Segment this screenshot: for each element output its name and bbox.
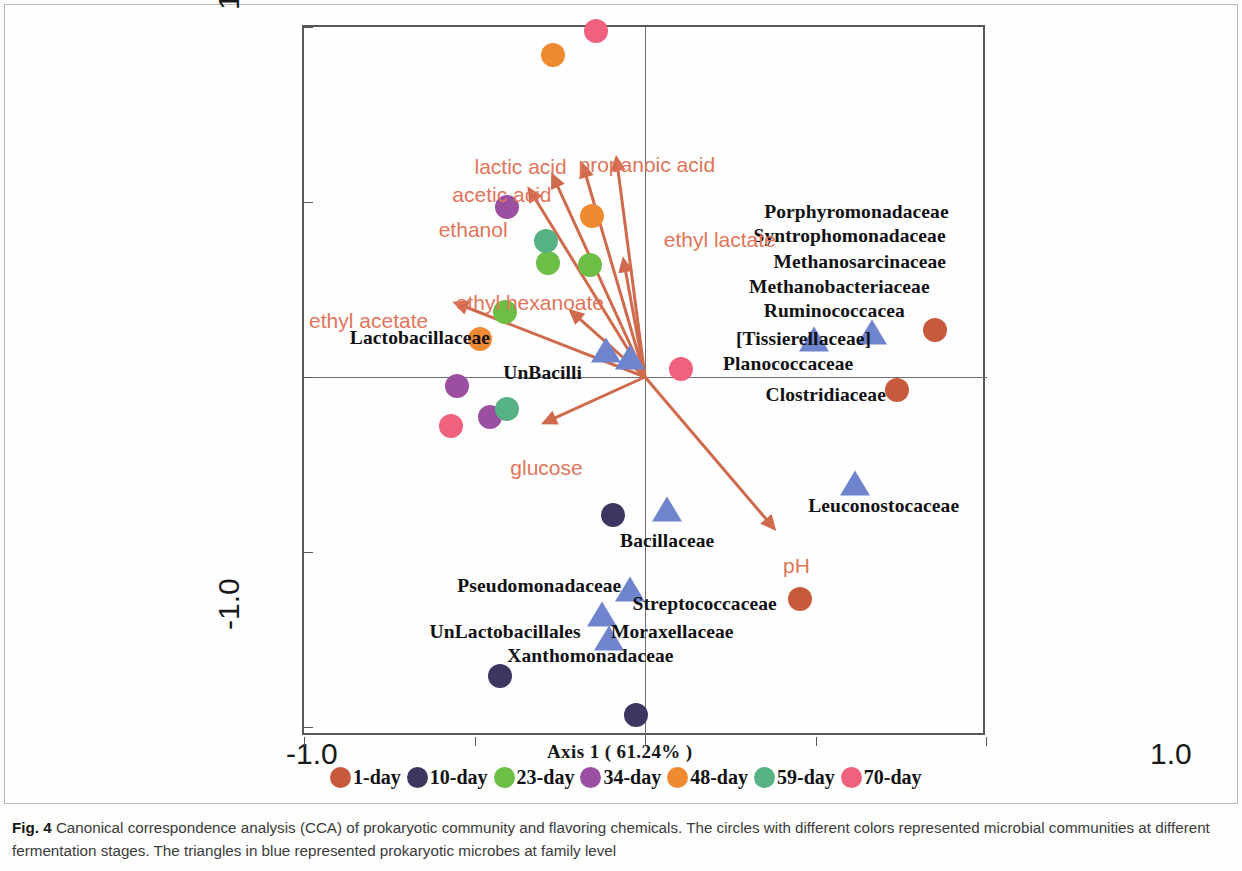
legend-item-1-day[interactable]: 1-day: [330, 766, 401, 789]
sample-circle-marker: [495, 397, 519, 421]
taxon-label: Methanosarcinaceae: [774, 251, 947, 273]
chemical-vector-label: glucose: [510, 456, 582, 480]
taxon-label: Ruminococcacea: [764, 300, 905, 322]
x-axis-title: Axis 1 ( 61.24% ): [547, 741, 693, 763]
x-axis-tick: [304, 737, 305, 746]
sample-circle-marker: [601, 503, 625, 527]
chemical-vector-label: propanoic acid: [579, 153, 716, 177]
figure-container: -1.0 1.0 1.0 -1.0 Axis 1 ( 61.24% ) Axis…: [0, 0, 1242, 871]
x-axis-tick: [475, 737, 476, 746]
chemical-vector-label: acetic acid: [452, 183, 551, 207]
taxon-label: Bacillaceae: [620, 530, 714, 552]
taxon-label: [Tissierellaceae]: [736, 328, 871, 350]
legend-label: 1-day: [353, 766, 401, 789]
taxon-triangle-marker: [840, 470, 870, 495]
x-axis-max-label: 1.0: [1150, 737, 1192, 771]
taxon-label: Xanthomonadaceae: [507, 645, 673, 667]
taxon-label: Methanobacteriaceae: [749, 276, 930, 298]
taxon-label: UnBacilli: [503, 362, 582, 384]
caption-text: Canonical correspondence analysis (CCA) …: [12, 819, 1210, 859]
legend-label: 59-day: [777, 766, 835, 789]
taxon-label: Pseudomonadaceae: [457, 575, 621, 597]
y-axis-max-label: 1.0: [212, 0, 246, 10]
legend-color-swatch: [580, 767, 601, 788]
legend-label: 10-day: [430, 766, 488, 789]
chemical-vector-label: ethyl acetate: [309, 309, 428, 333]
chemical-vector-label: pH: [783, 554, 810, 578]
sample-circle-marker: [624, 703, 648, 727]
legend-label: 34-day: [603, 766, 661, 789]
x-axis-tick: [816, 737, 817, 746]
sample-circle-marker: [669, 357, 693, 381]
sample-circle-marker: [536, 251, 560, 275]
legend-color-swatch: [494, 767, 515, 788]
sample-circle-marker: [584, 19, 608, 43]
taxon-label: Planococcaceae: [723, 353, 853, 375]
sample-circle-marker: [923, 318, 947, 342]
cca-plot-area: PorphyromonadaceaeSyntrophomonadaceaeMet…: [302, 25, 985, 735]
legend-color-swatch: [754, 767, 775, 788]
legend-item-34-day[interactable]: 34-day: [580, 766, 661, 789]
chemical-vector-label: ethyl hexanoate: [456, 291, 604, 315]
y-axis-min-label: -1.0: [212, 578, 246, 630]
legend-label: 70-day: [864, 766, 922, 789]
sample-circle-marker: [578, 253, 602, 277]
sample-circle-marker: [885, 378, 909, 402]
legend-color-swatch: [841, 767, 862, 788]
x-axis-tick: [645, 737, 646, 746]
x-axis-tick: [986, 737, 987, 746]
chemical-vector-label: lactic acid: [475, 155, 567, 179]
chemical-vector-label: ethyl lactate: [664, 228, 776, 252]
sample-circle-marker: [580, 204, 604, 228]
legend-label: 23-day: [517, 766, 575, 789]
taxon-label: Porphyromonadaceae: [764, 201, 949, 223]
taxon-triangle-marker: [615, 344, 645, 369]
legend-label: 48-day: [690, 766, 748, 789]
taxon-label: Moraxellaceae: [611, 621, 734, 643]
sample-circle-marker: [445, 374, 469, 398]
sample-circle-marker: [488, 664, 512, 688]
sample-circle-marker: [788, 587, 812, 611]
legend-item-59-day[interactable]: 59-day: [754, 766, 835, 789]
series-legend: 1-day10-day23-day34-day48-day59-day70-da…: [330, 766, 928, 789]
legend-item-23-day[interactable]: 23-day: [494, 766, 575, 789]
taxon-label: Leuconostocaceae: [808, 495, 959, 517]
taxon-triangle-marker: [652, 496, 682, 521]
legend-item-70-day[interactable]: 70-day: [841, 766, 922, 789]
sample-circle-marker: [541, 43, 565, 67]
sample-circle-marker: [439, 414, 463, 438]
taxon-label: Syntrophomonadaceae: [753, 225, 945, 247]
figure-number: Fig. 4: [12, 819, 52, 836]
legend-item-48-day[interactable]: 48-day: [667, 766, 748, 789]
taxon-label: UnLactobacillales: [430, 621, 581, 643]
taxon-label: Clostridiaceae: [765, 384, 886, 406]
sample-circle-marker: [534, 229, 558, 253]
chemical-vector-label: ethanol: [439, 218, 508, 242]
figure-caption: Fig. 4 Canonical correspondence analysis…: [12, 816, 1230, 862]
legend-color-swatch: [330, 767, 351, 788]
legend-item-10-day[interactable]: 10-day: [407, 766, 488, 789]
legend-color-swatch: [667, 767, 688, 788]
taxon-label: Streptococcaceae: [633, 593, 777, 615]
legend-color-swatch: [407, 767, 428, 788]
